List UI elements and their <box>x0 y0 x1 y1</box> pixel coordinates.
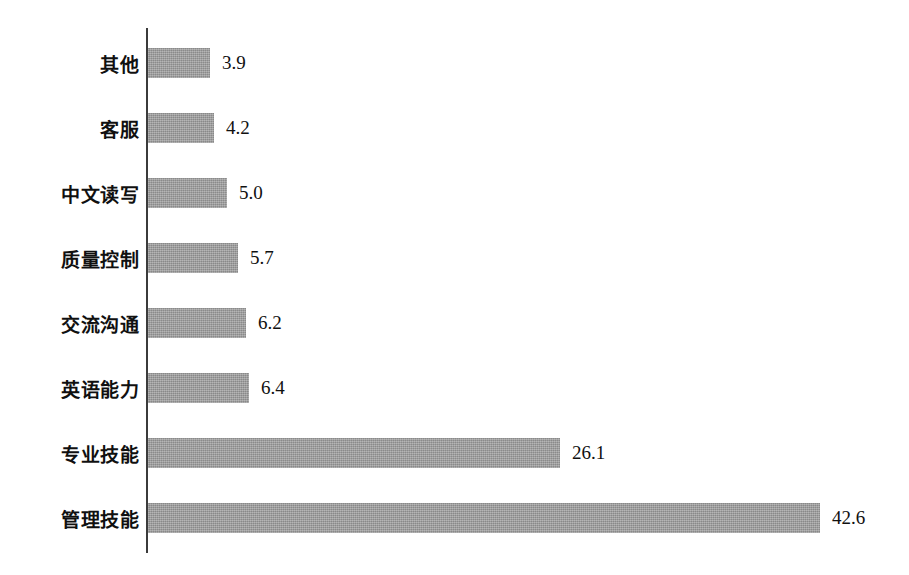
category-label: 质量控制 <box>61 245 139 272</box>
bar <box>148 178 227 208</box>
bar <box>148 373 249 403</box>
bar-row: 客服 4.2 <box>0 113 909 143</box>
bar-value-label: 4.2 <box>226 117 250 139</box>
category-label: 中文读写 <box>61 180 139 207</box>
category-label: 交流沟通 <box>61 310 139 337</box>
bar-row: 英语能力 6.4 <box>0 373 909 403</box>
category-label: 其他 <box>100 50 139 77</box>
bar <box>148 48 210 78</box>
bar-value-label: 42.6 <box>832 507 865 529</box>
category-label: 英语能力 <box>61 375 139 402</box>
bar-row: 质量控制 5.7 <box>0 243 909 273</box>
bar <box>148 113 214 143</box>
bar-value-label: 3.9 <box>222 52 246 74</box>
bar-value-label: 6.2 <box>258 312 282 334</box>
bar-row: 其他 3.9 <box>0 48 909 78</box>
category-label: 管理技能 <box>61 505 139 532</box>
category-axis-line <box>146 28 148 553</box>
bar-value-label: 6.4 <box>261 377 285 399</box>
bar-row: 管理技能 42.6 <box>0 503 909 533</box>
bar <box>148 308 246 338</box>
bar <box>148 243 238 273</box>
bar-row: 中文读写 5.0 <box>0 178 909 208</box>
bar-row: 交流沟通 6.2 <box>0 308 909 338</box>
bar <box>148 438 560 468</box>
horizontal-bar-chart: 其他 3.9 客服 4.2 中文读写 5.0 质量控制 5.7 交流沟通 6.2… <box>0 0 909 575</box>
category-label: 客服 <box>100 115 139 142</box>
bar-value-label: 5.7 <box>250 247 274 269</box>
bar-row: 专业技能 26.1 <box>0 438 909 468</box>
bar-value-label: 26.1 <box>572 442 605 464</box>
category-label: 专业技能 <box>61 440 139 467</box>
bar-value-label: 5.0 <box>239 182 263 204</box>
bar <box>148 503 820 533</box>
